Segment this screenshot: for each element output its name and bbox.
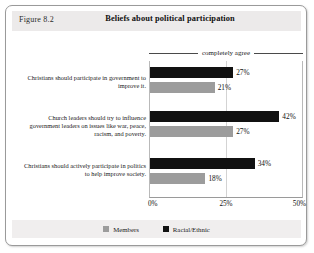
completely-agree-annotation: completely agree <box>149 49 303 57</box>
category-label-1: Church leaders should try to influence g… <box>24 114 146 139</box>
legend-label-racial-ethnic: Racial/Ethnic <box>173 226 210 233</box>
x-tick-label-25: 25% <box>219 200 232 208</box>
x-axis-tick-labels: 0% 25% 50% <box>149 200 303 212</box>
bar-racial-ethnic-0 <box>150 67 233 78</box>
bar-value-racial-ethnic-1: 42% <box>282 113 295 120</box>
chart-title: Beliefs about political participation <box>6 14 308 23</box>
bar-row-members-0: 21% <box>150 82 302 93</box>
x-tick-label-0: 0% <box>148 200 158 208</box>
figure-frame: Figure 8.2 Beliefs about political parti… <box>5 5 307 246</box>
bar-value-members-1: 27% <box>236 128 249 135</box>
bar-group-0: 27% 21% <box>150 67 302 93</box>
bar-members-1 <box>150 126 233 137</box>
bar-row-racial-ethnic-0: 27% <box>150 67 302 78</box>
annotation-rule-left <box>149 53 198 54</box>
bar-value-members-2: 18% <box>208 175 221 182</box>
bar-group-1: 42% 27% <box>150 111 302 137</box>
legend-label-members: Members <box>113 226 139 233</box>
bar-members-0 <box>150 82 215 93</box>
bar-value-racial-ethnic-2: 34% <box>258 160 271 167</box>
bar-row-racial-ethnic-2: 34% <box>150 158 302 169</box>
x-tick-label-50: 50% <box>293 200 306 208</box>
legend-swatch-racial-ethnic-icon <box>163 226 169 232</box>
bar-value-racial-ethnic-0: 27% <box>236 69 249 76</box>
bar-row-racial-ethnic-1: 42% <box>150 111 302 122</box>
legend-swatch-members-icon <box>103 226 109 232</box>
chart-legend: Members Racial/Ethnic <box>12 220 301 238</box>
bar-value-members-0: 21% <box>218 84 231 91</box>
annotation-rule-right <box>254 53 303 54</box>
category-label-0: Christians should participate in governm… <box>24 74 146 90</box>
legend-item-racial-ethnic: Racial/Ethnic <box>163 226 210 233</box>
bar-group-2: 34% 18% <box>150 158 302 184</box>
category-label-2: Christians should actively participate i… <box>24 162 146 178</box>
bar-row-members-2: 18% <box>150 173 302 184</box>
legend-item-members: Members <box>103 226 139 233</box>
bar-racial-ethnic-1 <box>150 111 279 122</box>
category-labels: Christians should participate in governm… <box>20 61 146 198</box>
annotation-label: completely agree <box>202 49 250 57</box>
bar-members-2 <box>150 173 205 184</box>
plot-area: 27% 21% 42% 27% 34% 18% <box>149 61 303 198</box>
bar-row-members-1: 27% <box>150 126 302 137</box>
bar-racial-ethnic-2 <box>150 158 255 169</box>
